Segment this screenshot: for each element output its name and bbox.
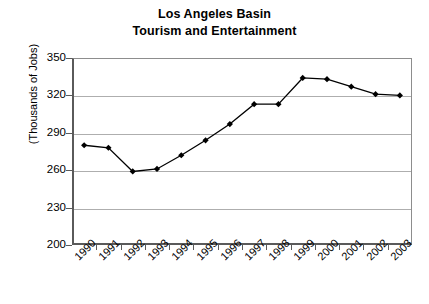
line-chart: Los Angeles Basin Tourism and Entertainm… — [0, 0, 429, 304]
y-axis-tick-mark — [66, 208, 72, 209]
y-axis-tick-mark — [66, 58, 72, 59]
gridline — [74, 209, 411, 210]
gridline — [74, 171, 411, 172]
plot-area — [72, 58, 412, 245]
gridline — [74, 96, 411, 97]
y-axis-tick-label: 350 — [22, 52, 66, 63]
chart-title-line-1: Los Angeles Basin — [0, 6, 429, 23]
y-axis-tick-mark — [66, 245, 72, 246]
y-axis-tick-label: 260 — [22, 164, 66, 175]
y-axis-tick-mark — [66, 95, 72, 96]
y-axis-tick-label: 230 — [22, 202, 66, 213]
y-axis-tick-label: 320 — [22, 89, 66, 100]
chart-title: Los Angeles Basin Tourism and Entertainm… — [0, 6, 429, 40]
y-axis-tick-mark — [66, 170, 72, 171]
chart-title-line-2: Tourism and Entertainment — [0, 23, 429, 40]
gridline — [74, 134, 411, 135]
y-axis-tick-label: 200 — [22, 239, 66, 250]
y-axis-tick-mark — [66, 133, 72, 134]
y-axis-tick-label: 290 — [22, 127, 66, 138]
